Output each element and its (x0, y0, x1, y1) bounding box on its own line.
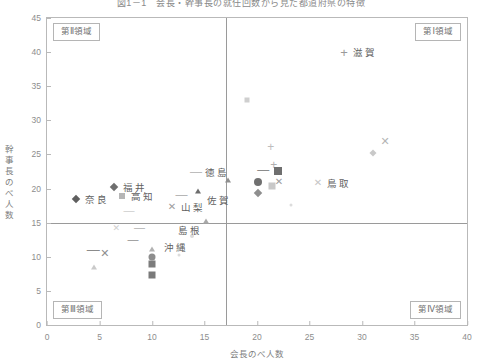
point-label-徳島: 徳島 (205, 165, 229, 179)
x-tick-mark (47, 321, 48, 325)
x-tick-5: 5 (97, 325, 102, 342)
point-marker-x: ✕ (380, 135, 391, 146)
x-tick-mark (257, 321, 258, 325)
point-marker-x: ✕ (112, 224, 121, 233)
point-label-沖縄: 沖縄 (164, 240, 188, 254)
point-marker-plus: + (265, 141, 276, 152)
scatter-chart: 図1－1 会長・幹事長の就任回数から見た都道府県の特徴 幹事長のべ人数 会長のべ… (0, 0, 482, 364)
x-tick-30: 30 (357, 325, 366, 342)
point-marker-dash: — (136, 224, 143, 231)
point-marker-circle (254, 178, 262, 186)
point-marker-square (149, 260, 156, 267)
y-tick-mark (47, 18, 51, 19)
y-tick-mark (47, 154, 51, 155)
point-label-佐賀: 佐賀 (207, 193, 231, 207)
y-axis-label: 幹事長のべ人数 (4, 144, 15, 221)
x-tick-20: 20 (252, 325, 261, 342)
point-marker-square (149, 271, 156, 278)
point-marker-dash: — (125, 206, 132, 213)
point-marker-diamond (369, 150, 376, 157)
point-marker-x: ✕ (274, 177, 284, 187)
point-label-鳥取: 鳥取 (327, 176, 351, 190)
plot-inner: 第Ⅱ領域 第Ⅰ領域 第Ⅲ領域 第Ⅳ領域 +✕++——✕✕—✕—✕———✕ 滋賀徳… (47, 18, 467, 325)
x-tick-10: 10 (147, 325, 156, 342)
point-label-奈良: 奈良 (85, 192, 109, 206)
point-label-山梨: 山梨 (181, 200, 205, 214)
point-marker-x: ✕ (99, 247, 110, 258)
point-marker-x: ✕ (313, 178, 323, 188)
point-marker-dash: — (177, 191, 185, 199)
point-marker-dot (289, 203, 292, 206)
point-marker-x: ✕ (167, 202, 177, 212)
y-tick-mark (47, 257, 51, 258)
y-tick-mark (47, 189, 51, 190)
point-marker-dot (178, 254, 181, 257)
x-tick-mark (205, 321, 206, 325)
y-tick-mark (47, 52, 51, 53)
y-tick-mark (47, 223, 51, 224)
y-tick-40: 40 (32, 47, 47, 57)
point-marker-square (274, 167, 282, 175)
y-tick-5: 5 (36, 286, 47, 296)
point-marker-triangle (203, 219, 209, 224)
y-tick-mark (47, 86, 51, 87)
x-tick-mark (467, 321, 468, 325)
x-tick-15: 15 (200, 325, 209, 342)
quadrant-label-top-left: 第Ⅱ領域 (53, 23, 100, 41)
point-marker-diamond (254, 189, 262, 197)
point-marker-diamond (72, 195, 80, 203)
point-marker-square (244, 97, 249, 102)
point-marker-triangle (91, 265, 97, 270)
point-label-島根: 島根 (178, 223, 202, 237)
y-tick-30: 30 (32, 115, 47, 125)
y-tick-20: 20 (32, 184, 47, 194)
point-marker-triangle (195, 188, 201, 193)
y-tick-15: 15 (32, 218, 47, 228)
point-marker-triangle (149, 247, 155, 252)
point-marker-dash: — (259, 166, 267, 174)
point-marker-square (268, 182, 275, 189)
x-axis-label: 会長のべ人数 (46, 347, 468, 359)
x-tick-mark (415, 321, 416, 325)
plot-area: 第Ⅱ領域 第Ⅰ領域 第Ⅲ領域 第Ⅳ領域 +✕++——✕✕—✕—✕———✕ 滋賀徳… (46, 17, 468, 326)
y-tick-mark (47, 291, 51, 292)
point-marker-dash: — (192, 168, 200, 176)
x-tick-mark (152, 321, 153, 325)
point-label-高知: 高知 (131, 189, 155, 203)
quadrant-label-bottom-right: 第Ⅳ領域 (410, 301, 461, 319)
point-marker-plus: + (338, 46, 350, 58)
y-tick-35: 35 (32, 81, 47, 91)
y-tick-25: 25 (32, 149, 47, 159)
x-tick-0: 0 (45, 325, 50, 342)
chart-title: 図1－1 会長・幹事長の就任回数から見た都道府県の特徴 (0, 0, 482, 9)
point-marker-diamond (110, 182, 118, 190)
x-tick-40: 40 (462, 325, 471, 342)
x-tick-mark (362, 321, 363, 325)
point-label-滋賀: 滋賀 (353, 45, 377, 59)
point-marker-triangle (225, 178, 231, 183)
x-tick-mark (99, 321, 100, 325)
y-tick-10: 10 (32, 252, 47, 262)
point-marker-square (119, 193, 125, 199)
quadrant-label-bottom-left: 第Ⅲ領域 (53, 301, 102, 319)
horizontal-reference-line (47, 223, 467, 224)
x-tick-25: 25 (305, 325, 314, 342)
quadrant-label-top-right: 第Ⅰ領域 (415, 23, 461, 41)
y-tick-45: 45 (32, 13, 47, 23)
point-marker-dash: — (89, 244, 98, 253)
y-tick-mark (47, 120, 51, 121)
x-tick-mark (310, 321, 311, 325)
x-tick-35: 35 (410, 325, 419, 342)
point-marker-dash: — (130, 236, 137, 243)
